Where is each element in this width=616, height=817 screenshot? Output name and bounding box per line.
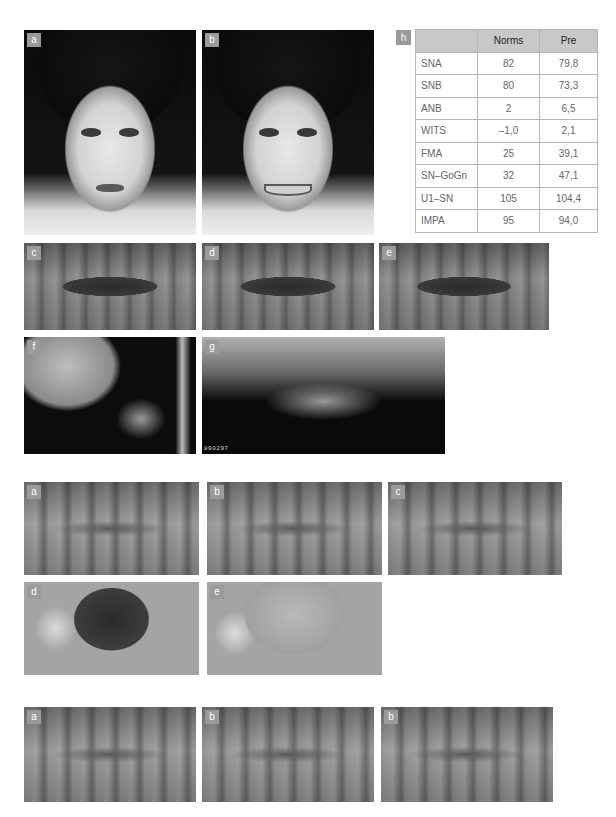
photo-1a-face-rest: a [24, 30, 196, 235]
photo-1d-intraoral-frontal: d [202, 243, 374, 330]
table-row: U1–SN 105 104,4 [416, 187, 598, 210]
panel-label: b [210, 485, 224, 499]
header-pre: Pre [540, 30, 598, 53]
panel-label: b [384, 710, 398, 724]
panel-label: a [27, 710, 41, 724]
pre-cell: 104,4 [540, 187, 598, 210]
table-row: SNB 80 73,3 [416, 75, 598, 98]
pre-cell: 39,1 [540, 142, 598, 165]
table-row: WITS –1,0 2,1 [416, 120, 598, 143]
param-cell: IMPA [416, 210, 478, 233]
photo-1e-intraoral-left: e [379, 243, 549, 330]
pre-cell: 94,0 [540, 210, 598, 233]
norms-cell: 82 [478, 52, 540, 75]
eye-shape [81, 128, 102, 136]
pre-cell: 73,3 [540, 75, 598, 98]
param-cell: SNB [416, 75, 478, 98]
param-cell: FMA [416, 142, 478, 165]
eye-shape [119, 128, 140, 136]
cephalometric-table: Norms Pre SNA 82 79,8 SNB 80 73,3 ANB 2 … [415, 29, 598, 233]
param-cell: U1–SN [416, 187, 478, 210]
header-norms: Norms [478, 30, 540, 53]
photo-2e-occlusal-tongue: e [207, 582, 382, 675]
mouth-shape [264, 184, 312, 196]
panel-label-h: h [396, 30, 411, 45]
mouth-shape [96, 184, 124, 192]
panel-label: f [27, 340, 41, 354]
eye-shape [259, 128, 280, 136]
norms-cell: 2 [478, 97, 540, 120]
photo-2d-occlusal-stitches: d [24, 582, 199, 675]
norms-cell: 105 [478, 187, 540, 210]
norms-cell: 32 [478, 165, 540, 188]
photo-3b-intraoral-frontal: b [202, 707, 374, 802]
photo-2b-intraoral-frontal: b [207, 482, 382, 575]
panel-label: d [205, 246, 219, 260]
norms-cell: –1,0 [478, 120, 540, 143]
panel-label: c [27, 246, 41, 260]
param-cell: SNA [416, 52, 478, 75]
photo-3c-intraoral-left: b [381, 707, 553, 802]
table-row: ANB 2 6,5 [416, 97, 598, 120]
table-row: FMA 25 39,1 [416, 142, 598, 165]
photo-3a-intraoral-right: a [24, 707, 196, 802]
panel-label: d [27, 585, 41, 599]
param-cell: WITS [416, 120, 478, 143]
table-header-row: Norms Pre [416, 30, 598, 53]
norms-cell: 95 [478, 210, 540, 233]
pre-cell: 47,1 [540, 165, 598, 188]
photo-1b-face-smile: b [202, 30, 374, 235]
photo-1c-intraoral-right: c [24, 243, 196, 330]
photo-2a-intraoral-right: a [24, 482, 199, 575]
panel-label: b [205, 710, 219, 724]
panel-label: b [205, 33, 219, 47]
photo-2c-intraoral-left: c [388, 482, 562, 575]
norms-cell: 80 [478, 75, 540, 98]
panel-label: g [205, 340, 219, 354]
pre-cell: 2,1 [540, 120, 598, 143]
header-param [416, 30, 478, 53]
param-cell: ANB [416, 97, 478, 120]
xray-imprint: 890297 [204, 445, 229, 452]
pre-cell: 6,5 [540, 97, 598, 120]
photo-1g-panoramic-xray: g 890297 [202, 337, 445, 454]
panel-label: c [391, 485, 405, 499]
table-row: SN–GoGn 32 47,1 [416, 165, 598, 188]
param-cell: SN–GoGn [416, 165, 478, 188]
eye-shape [297, 128, 318, 136]
panel-label: a [27, 33, 41, 47]
panel-label: e [382, 246, 396, 260]
photo-1f-cephalometric-xray: f [24, 337, 196, 454]
panel-label: e [210, 585, 224, 599]
pre-cell: 79,8 [540, 52, 598, 75]
panel-label: a [27, 485, 41, 499]
table-row: IMPA 95 94,0 [416, 210, 598, 233]
table-row: SNA 82 79,8 [416, 52, 598, 75]
norms-cell: 25 [478, 142, 540, 165]
